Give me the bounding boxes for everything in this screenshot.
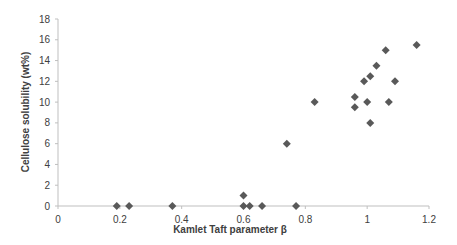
diamond-marker — [292, 202, 300, 210]
y-tick-label: 12 — [39, 76, 51, 87]
diamond-marker — [311, 98, 319, 106]
diamond-marker — [258, 202, 266, 210]
x-tick-label: 0 — [55, 214, 61, 225]
diamond-marker — [240, 192, 248, 200]
y-tick-label: 16 — [39, 34, 51, 45]
x-axis-ticks: 00.20.40.60.811.2 — [55, 206, 436, 225]
x-axis-title: Kamlet Taft parameter β — [173, 224, 287, 235]
diamond-marker — [125, 202, 133, 210]
y-axis-ticks: 024681012141618 — [39, 14, 58, 212]
x-tick-label: 1 — [364, 214, 370, 225]
diamond-marker — [366, 72, 374, 80]
y-tick-label: 2 — [44, 180, 50, 191]
scatter-chart: 024681012141618 00.20.40.60.811.2 Kamlet… — [0, 0, 457, 245]
diamond-marker — [413, 41, 421, 49]
diamond-marker — [382, 46, 390, 54]
y-tick-label: 0 — [44, 201, 50, 212]
y-tick-label: 10 — [39, 97, 51, 108]
diamond-marker — [351, 103, 359, 111]
diamond-marker — [385, 98, 393, 106]
diamond-marker — [351, 93, 359, 101]
data-points — [113, 41, 421, 210]
y-tick-label: 14 — [39, 55, 51, 66]
diamond-marker — [372, 62, 380, 70]
y-tick-label: 4 — [44, 159, 50, 170]
diamond-marker — [360, 77, 368, 85]
x-tick-label: 1.2 — [422, 214, 436, 225]
y-tick-label: 18 — [39, 14, 51, 25]
y-axis-title: Cellulose solubility (wt%) — [20, 52, 31, 173]
diamond-marker — [363, 98, 371, 106]
diamond-marker — [391, 77, 399, 85]
y-tick-label: 8 — [44, 117, 50, 128]
diamond-marker — [246, 202, 254, 210]
y-tick-label: 6 — [44, 138, 50, 149]
diamond-marker — [366, 119, 374, 127]
x-tick-label: 0.8 — [298, 214, 312, 225]
diamond-marker — [168, 202, 176, 210]
diamond-marker — [283, 140, 291, 148]
x-tick-label: 0.2 — [113, 214, 127, 225]
